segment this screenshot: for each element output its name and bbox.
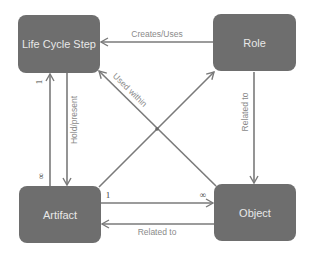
node-role: Role <box>213 14 296 71</box>
node-label-artifact: Artifact <box>43 209 77 221</box>
multiplicity-lcs-artifact-top: 1 <box>34 80 44 85</box>
edge-label-used-within: Used within <box>111 71 150 109</box>
multiplicity-artifact-object-right: ∞ <box>200 190 206 200</box>
edge-label-related-to-vertical: Related to <box>240 92 250 131</box>
multiplicity-artifact-object-left: 1 <box>106 190 111 200</box>
node-label-life-cycle-step: Life Cycle Step <box>22 38 96 50</box>
node-label-role: Role <box>243 37 266 49</box>
edge-label-hold-present: Hold/present <box>69 95 79 144</box>
edge-label-creates-uses: Creates/Uses <box>131 29 183 39</box>
node-life-cycle-step: Life Cycle Step <box>18 15 100 73</box>
node-object: Object <box>214 184 296 241</box>
node-label-object: Object <box>239 207 271 219</box>
node-artifact: Artifact <box>19 186 101 243</box>
multiplicity-lcs-artifact-bottom: ∞ <box>36 173 46 179</box>
edge-label-related-to-horizontal: Related to <box>138 227 177 237</box>
edge-crossing <box>155 127 159 131</box>
